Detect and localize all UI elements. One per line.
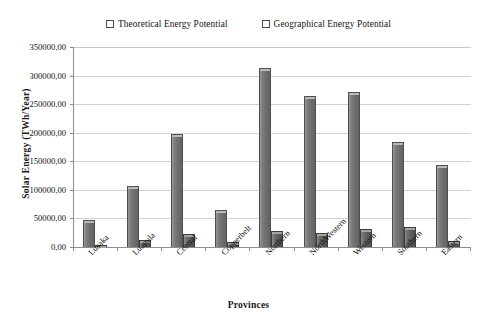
y-axis-tick-label: 100000,00 bbox=[29, 185, 66, 195]
y-axis-tick-label: 200000,00 bbox=[29, 128, 66, 138]
legend-entry-theoretical: Theoretical Energy Potential bbox=[106, 19, 228, 29]
bar-theoretical bbox=[436, 165, 448, 247]
bar-group bbox=[117, 47, 161, 247]
bar-theoretical bbox=[304, 96, 316, 247]
bar-group bbox=[294, 47, 338, 247]
chart-legend: Theoretical Energy Potential Geographica… bbox=[0, 16, 497, 32]
bar-group bbox=[249, 47, 293, 247]
legend-swatch-icon bbox=[106, 20, 114, 28]
legend-label-theoretical: Theoretical Energy Potential bbox=[118, 19, 228, 29]
figure-container: Theoretical Energy Potential Geographica… bbox=[0, 0, 497, 333]
bar-group bbox=[338, 47, 382, 247]
bar-group bbox=[161, 47, 205, 247]
bar-theoretical bbox=[215, 210, 227, 247]
bar-theoretical bbox=[348, 92, 360, 247]
y-axis-tick-label: 250000,00 bbox=[29, 99, 66, 109]
legend-label-geographical: Geographical Energy Potential bbox=[274, 19, 391, 29]
x-axis-title: Provinces bbox=[0, 299, 497, 310]
y-axis-ticks: 0,0050000,00100000,00150000,00200000,002… bbox=[0, 47, 70, 247]
legend-swatch-icon bbox=[262, 20, 270, 28]
bar-group bbox=[426, 47, 470, 247]
y-axis-tick-label: 150000,00 bbox=[29, 156, 66, 166]
x-axis-tick-mark bbox=[470, 247, 471, 251]
bar-group bbox=[73, 47, 117, 247]
bar-group bbox=[382, 47, 426, 247]
y-axis-tick-label: 0,00 bbox=[51, 242, 66, 252]
x-axis-labels: LusakaLuapulaCentralCopperbeltNorthernNo… bbox=[73, 250, 470, 302]
y-axis-tick-label: 50000,00 bbox=[34, 213, 66, 223]
bar-theoretical bbox=[127, 186, 139, 247]
legend-entry-geographical: Geographical Energy Potential bbox=[262, 19, 391, 29]
y-axis-tick-label: 350000,00 bbox=[29, 42, 66, 52]
bar-theoretical bbox=[259, 68, 271, 247]
y-axis-tick-label: 300000,00 bbox=[29, 71, 66, 81]
bar-theoretical bbox=[171, 134, 183, 247]
bar-group bbox=[205, 47, 249, 247]
bar-layer bbox=[73, 47, 470, 247]
bar-theoretical bbox=[392, 142, 404, 247]
